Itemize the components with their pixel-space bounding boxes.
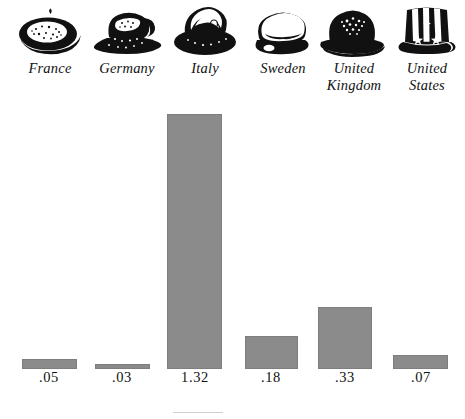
bar-chart-plot-area	[0, 104, 465, 369]
country-column-united-states: United States	[388, 0, 465, 93]
tyrolean-hat-icon	[88, 0, 166, 58]
value-label-united-states: .07	[382, 369, 460, 386]
value-label-united-kingdom: .33	[306, 369, 384, 386]
bowler-hat-icon	[315, 0, 393, 58]
fedora-hat-icon	[166, 0, 244, 58]
footer-divider	[173, 412, 223, 413]
country-label-united-kingdom: United Kingdom	[315, 60, 393, 93]
bar-france	[22, 359, 77, 369]
country-label-sweden: Sweden	[244, 60, 322, 77]
value-label-germany: .03	[83, 369, 161, 386]
value-label-italy: 1.32	[156, 369, 234, 386]
value-label-row: .05 .03 1.32 .18 .33 .07	[0, 369, 465, 399]
value-label-sweden: .18	[232, 369, 310, 386]
country-label-united-states: United States	[388, 60, 465, 93]
country-column-united-kingdom: United Kingdom	[315, 0, 393, 93]
bar-united-states	[393, 355, 448, 369]
student-cap-icon	[244, 0, 322, 58]
country-label-france: France	[11, 60, 89, 77]
country-label-germany: Germany	[88, 60, 166, 77]
value-label-france: .05	[10, 369, 88, 386]
bar-sweden	[245, 336, 298, 369]
country-column-france: France	[11, 0, 89, 77]
country-column-germany: Germany	[88, 0, 166, 77]
beret-hat-icon	[11, 0, 89, 58]
country-label-italy: Italy	[166, 60, 244, 77]
uncle-sam-top-hat-icon	[388, 0, 465, 58]
bar-united-kingdom	[318, 307, 372, 369]
country-column-italy: Italy	[166, 0, 244, 77]
country-column-sweden: Sweden	[244, 0, 322, 77]
country-header-row: France	[0, 0, 465, 104]
bar-italy	[167, 114, 222, 369]
